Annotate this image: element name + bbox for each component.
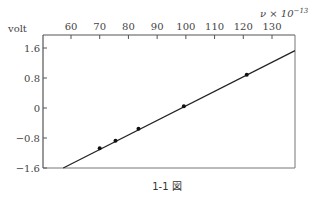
chart: 60708090100110120130 1.60.80−0.8−1.6 vol… — [0, 0, 334, 200]
x-axis-title: ν × 10−13 — [260, 7, 309, 19]
data-point — [182, 104, 186, 108]
y-tick-label: −1.6 — [16, 163, 40, 174]
x-tick-label: 120 — [234, 21, 253, 32]
regression-line — [63, 51, 295, 168]
x-tick-label: 110 — [205, 21, 224, 32]
data-point — [114, 139, 118, 143]
x-axis-title-nu: ν × 10 — [260, 8, 294, 19]
figure-caption: 1-1 図 — [0, 178, 334, 193]
y-axis-ticks: 1.60.80−0.8−1.6 — [16, 43, 47, 174]
y-tick-label: 0.8 — [24, 73, 40, 84]
x-tick-label: 70 — [93, 21, 106, 32]
data-point — [98, 146, 102, 150]
x-tick-label: 130 — [262, 21, 281, 32]
x-tick-label: 90 — [151, 21, 164, 32]
x-tick-label: 80 — [122, 21, 135, 32]
y-tick-label: 0 — [34, 103, 40, 114]
y-tick-label: 1.6 — [24, 43, 40, 54]
plot-frame — [43, 35, 295, 168]
data-point — [245, 73, 249, 77]
x-axis-ticks: 60708090100110120130 — [65, 21, 282, 39]
x-tick-label: 60 — [65, 21, 78, 32]
y-axis-title: volt — [7, 23, 27, 34]
y-tick-label: −0.8 — [16, 133, 40, 144]
x-axis-title-exponent: −13 — [294, 7, 309, 15]
x-tick-label: 100 — [176, 21, 195, 32]
data-point — [136, 127, 140, 131]
fit-line — [63, 51, 295, 168]
